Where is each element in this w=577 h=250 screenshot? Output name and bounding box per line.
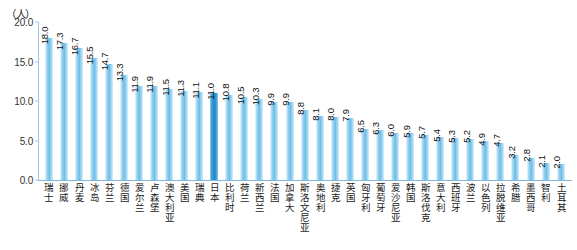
bar[interactable]: 5.7 [421, 135, 429, 180]
bar[interactable]: 2.8 [527, 158, 535, 180]
bar-value-label: 2.0 [552, 156, 562, 168]
bar-slot: 11.5 [162, 22, 177, 180]
bar-slot: 13.3 [116, 22, 131, 180]
x-axis-category-label: 比利时 [224, 183, 234, 213]
x-axis-category-label: 爱尔兰 [134, 183, 144, 213]
bar[interactable]: 2.1 [542, 163, 550, 180]
bar-value-label: 11.1 [190, 82, 200, 99]
category-slot: 斯洛文尼亚 [297, 183, 312, 250]
bar[interactable]: 8.0 [331, 117, 339, 180]
x-axis-category-label: 土耳其 [556, 183, 566, 213]
category-slot: 韩国 [403, 183, 418, 250]
bar[interactable]: 5.3 [451, 138, 459, 180]
bar[interactable]: 5.9 [406, 133, 414, 180]
bar-value-label: 5.3 [446, 130, 456, 142]
x-axis-category-label: 丹麦 [74, 183, 84, 203]
x-axis-category-label: 英国 [345, 183, 355, 203]
category-slot: 英国 [342, 183, 357, 250]
bar-series: 18.017.316.715.514.713.311.911.911.511.3… [38, 22, 571, 180]
bar-value-label: 2.1 [537, 155, 547, 167]
category-slot: 法国 [267, 183, 282, 250]
bar[interactable]: 10.3 [255, 99, 263, 180]
bar[interactable]: 11.1 [195, 92, 203, 180]
x-axis-category-label: 法国 [270, 183, 280, 203]
category-slot: 爱尔兰 [131, 183, 146, 250]
category-slot: 捷克 [327, 183, 342, 250]
category-slot: 日本 [207, 183, 222, 250]
bar-value-label: 11.9 [130, 76, 140, 93]
x-axis-category-label: 以色列 [481, 183, 491, 213]
plot-area: 0.05.010.015.020.0 18.017.316.715.514.71… [38, 22, 571, 180]
x-axis-line [38, 180, 572, 181]
bar[interactable]: 6.5 [361, 129, 369, 180]
x-axis-category-labels: 瑞士挪威丹麦冰岛芬兰德国爱尔兰卢森堡澳大利亚美国瑞典日本比利时荷兰新西兰法国加拿… [38, 183, 571, 250]
bar[interactable]: 8.8 [301, 110, 309, 180]
bar-value-label: 6.3 [371, 122, 381, 134]
category-slot: 斯洛伐克 [418, 183, 433, 250]
category-slot: 瑞典 [192, 183, 207, 250]
bar[interactable]: 11.9 [135, 86, 143, 180]
bar[interactable]: 6.0 [391, 133, 399, 180]
bar[interactable]: 5.2 [466, 139, 474, 180]
bar-slot: 14.7 [101, 22, 116, 180]
category-slot: 冰岛 [86, 183, 101, 250]
x-axis-category-label: 挪威 [59, 183, 69, 203]
bar[interactable]: 11.3 [180, 91, 188, 180]
bar-slot: 5.9 [403, 22, 418, 180]
x-axis-category-label: 新西兰 [255, 183, 265, 213]
bar-value-label: 18.0 [40, 27, 50, 44]
x-axis-category-label: 斯洛伐克 [420, 183, 430, 223]
x-axis-category-label: 智利 [541, 183, 551, 203]
bar-value-label: 11.0 [205, 83, 215, 100]
bar-value-label: 9.9 [281, 94, 291, 106]
bar-value-label: 5.2 [461, 131, 471, 143]
bar[interactable]: 17.3 [60, 43, 68, 180]
bar-highlighted[interactable]: 11.0 [210, 93, 218, 180]
bar[interactable]: 9.9 [286, 102, 294, 180]
category-slot: 希腊 [508, 183, 523, 250]
bar-value-label: 11.3 [175, 80, 185, 97]
bar-slot: 8.0 [327, 22, 342, 180]
bar[interactable]: 11.9 [150, 86, 158, 180]
bar-value-label: 15.5 [85, 47, 95, 64]
bar[interactable]: 18.0 [45, 38, 53, 180]
bar-value-label: 10.8 [220, 84, 230, 101]
bar-slot: 11.9 [131, 22, 146, 180]
bar[interactable]: 11.5 [165, 89, 173, 180]
x-axis-category-label: 加拿大 [285, 183, 295, 213]
bar[interactable]: 9.9 [270, 102, 278, 180]
bar[interactable]: 16.7 [75, 48, 83, 180]
bar[interactable]: 5.4 [436, 137, 444, 180]
x-axis-category-label: 荷兰 [240, 183, 250, 203]
bar-value-label: 13.3 [115, 64, 125, 81]
bar[interactable]: 13.3 [120, 75, 128, 180]
bar-slot: 8.8 [297, 22, 312, 180]
bar-value-label: 4.7 [491, 135, 501, 147]
bar[interactable]: 8.1 [316, 116, 324, 180]
x-axis-category-label: 爱沙尼亚 [390, 183, 400, 223]
bar[interactable]: 2.0 [557, 164, 565, 180]
category-slot: 新西兰 [252, 183, 267, 250]
bar[interactable]: 10.5 [240, 97, 248, 180]
bar-slot: 5.3 [448, 22, 463, 180]
x-axis-category-label: 匈牙利 [360, 183, 370, 213]
bar[interactable]: 4.9 [481, 141, 489, 180]
bar[interactable]: 4.7 [496, 143, 504, 180]
bar-value-label: 8.0 [326, 109, 336, 121]
bar-value-label: 8.8 [296, 102, 306, 114]
bar-slot: 5.7 [418, 22, 433, 180]
bar[interactable]: 10.8 [225, 95, 233, 180]
x-axis-category-label: 冰岛 [89, 183, 99, 203]
x-axis-category-label: 希腊 [511, 183, 521, 203]
category-slot: 智利 [538, 183, 553, 250]
x-axis-category-label: 拉脱维亚 [496, 183, 506, 223]
bar-slot: 8.1 [312, 22, 327, 180]
bar[interactable]: 7.9 [346, 118, 354, 180]
category-slot: 拉脱维亚 [493, 183, 508, 250]
bar[interactable]: 15.5 [90, 58, 98, 180]
category-slot: 比利时 [222, 183, 237, 250]
category-slot: 丹麦 [71, 183, 86, 250]
bar[interactable]: 6.3 [376, 130, 384, 180]
bar[interactable]: 3.2 [511, 155, 519, 180]
bar[interactable]: 14.7 [105, 64, 113, 180]
